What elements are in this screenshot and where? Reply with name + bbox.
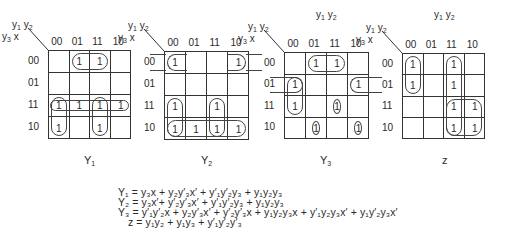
corner-diagonal-line	[28, 28, 50, 52]
kmap-cell	[49, 51, 70, 73]
row-variable-label: y3 x	[238, 34, 255, 47]
row-label: 00	[28, 56, 39, 66]
row-label: 01	[264, 79, 275, 89]
kmap-cell	[207, 52, 228, 74]
row-label: 10	[144, 123, 155, 133]
map-caption-y2: Y2	[201, 154, 212, 167]
grouping-loop	[72, 53, 108, 70]
column-label: 11	[446, 40, 456, 50]
wraparound-line	[270, 77, 286, 78]
column-label: 10	[467, 40, 478, 50]
kmap-cell	[306, 75, 327, 97]
kmap-cell	[465, 75, 486, 96]
map-caption-z: z	[442, 154, 448, 167]
kmap-cell	[111, 117, 132, 139]
map-caption-y3: Y3	[320, 154, 331, 167]
column-label: 00	[288, 39, 299, 49]
column-label: 01	[189, 38, 200, 48]
grouping-loop	[308, 55, 345, 72]
caption-subscript: 3	[327, 160, 331, 167]
wraparound-line	[270, 92, 286, 93]
column-label: 01	[72, 37, 83, 47]
kmap-cell	[70, 117, 91, 139]
kmap-cell	[165, 74, 186, 96]
column-label: 00	[168, 38, 179, 48]
kmap-cell	[186, 52, 207, 74]
kmap-cell	[424, 97, 445, 118]
kmap-cell	[403, 118, 424, 139]
row-label: 00	[144, 57, 155, 67]
kmap-cell	[424, 54, 445, 75]
grouping-loop	[350, 77, 370, 94]
wraparound-line	[246, 54, 262, 55]
grouping-loop	[333, 99, 341, 114]
column-label: 01	[309, 39, 320, 49]
wraparound-line	[150, 70, 166, 71]
wraparound-line	[150, 54, 166, 55]
kmap-cell	[186, 96, 207, 118]
kmap-cell	[403, 97, 424, 118]
row-label: 11	[382, 101, 392, 111]
kmap-cell	[424, 118, 445, 139]
column-label: 11	[210, 38, 220, 48]
kmap-cell	[348, 53, 369, 75]
row-variable-label: y3 x	[356, 35, 373, 48]
kmap-cell	[90, 73, 111, 95]
kmap-cell	[186, 74, 207, 96]
row-label: 10	[28, 122, 39, 132]
column-label: 11	[92, 37, 102, 47]
kmap-cell	[111, 51, 132, 73]
column-label: 01	[426, 40, 437, 50]
caption-subscript: 1	[91, 160, 95, 167]
column-label: 00	[405, 40, 416, 50]
grouping-loop	[446, 99, 482, 137]
grouping-loop	[405, 56, 421, 94]
wraparound-line	[246, 70, 262, 71]
kmap-cell	[70, 73, 91, 95]
row-variable-label: y3 x	[2, 32, 19, 45]
grouping-loop	[312, 121, 320, 136]
row-label: 00	[382, 59, 393, 69]
grouping-loop	[227, 54, 246, 71]
row-label: 11	[144, 101, 154, 111]
row-label: 01	[144, 79, 155, 89]
kmap-cell	[285, 118, 306, 140]
column-label: 00	[51, 37, 62, 47]
kmap-cell	[465, 54, 486, 75]
column-variable-label-top: y1 y2	[434, 10, 455, 23]
row-label: 10	[264, 122, 275, 132]
caption-text: z	[442, 154, 448, 166]
kmap-cell	[327, 118, 348, 140]
row-label: 10	[382, 123, 393, 133]
column-variable-label-top: y1 y2	[316, 10, 337, 23]
kmap-cell	[348, 96, 369, 118]
row-label: 11	[264, 101, 274, 111]
grouping-loop	[167, 54, 187, 71]
kmap-cell	[424, 75, 445, 96]
kmap-cell	[207, 74, 228, 96]
equation-4: z = y₁y₂ + y₁y₃ + y′₁y′₂y′₃	[128, 217, 242, 227]
kmap-cell	[228, 74, 249, 96]
row-variable-label: y3 x	[118, 33, 135, 46]
kmap-cell	[49, 73, 70, 95]
map-caption-y1: Y1	[84, 154, 95, 167]
grouping-loop	[50, 100, 129, 111]
grouping-loop	[167, 120, 246, 137]
kmap-cell	[111, 73, 132, 95]
grouping-loop	[354, 121, 362, 136]
grouping-loop	[284, 77, 303, 94]
kmap-cell	[306, 96, 327, 118]
caption-subscript: 2	[208, 160, 212, 167]
row-label: 11	[28, 100, 38, 110]
corner-diagonal-line	[144, 29, 166, 53]
row-label: 00	[264, 58, 275, 68]
column-label: 11	[330, 39, 340, 49]
corner-diagonal-line	[382, 31, 404, 55]
kmap-cell	[228, 96, 249, 118]
kmap-cell	[285, 53, 306, 75]
row-label: 01	[28, 78, 39, 88]
kmap-cell	[327, 75, 348, 97]
corner-diagonal-line	[264, 30, 286, 54]
row-label: 01	[382, 80, 393, 90]
